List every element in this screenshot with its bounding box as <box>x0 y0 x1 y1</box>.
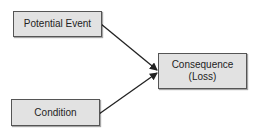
node-label-line1: Consequence <box>172 59 234 71</box>
node-label: Potential Event <box>24 18 91 30</box>
arrow-potential-event-to-consequence <box>101 24 157 70</box>
node-label: Condition <box>34 107 76 119</box>
arrow-condition-to-consequence <box>99 73 157 114</box>
node-consequence: Consequence (Loss) <box>158 53 247 89</box>
node-potential-event: Potential Event <box>13 11 102 37</box>
node-condition: Condition <box>11 99 100 126</box>
node-label-line2: (Loss) <box>189 71 217 83</box>
